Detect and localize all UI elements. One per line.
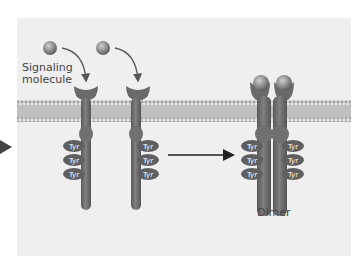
signaling-molecule-label-line2: molecule bbox=[22, 74, 73, 86]
signaling-molecule-2 bbox=[96, 41, 110, 55]
tyr-label: Tyr bbox=[246, 157, 257, 165]
pointer-arrow-icon bbox=[0, 140, 12, 154]
tyr-label: Tyr bbox=[287, 143, 298, 151]
signaling-molecule-1 bbox=[43, 41, 57, 55]
tyr-group-1: Tyr Tyr Tyr bbox=[63, 140, 85, 180]
diagram: Tyr Tyr Tyr Tyr Tyr Tyr bbox=[0, 0, 361, 266]
diagram-canvas: Tyr Tyr Tyr Tyr Tyr Tyr bbox=[0, 0, 361, 266]
tyr-label: Tyr bbox=[246, 171, 257, 179]
tyr-label: Tyr bbox=[287, 157, 298, 165]
tyr-label: Tyr bbox=[68, 171, 79, 179]
bound-signaling-molecule-1 bbox=[253, 75, 269, 91]
tyr-label: Tyr bbox=[68, 143, 79, 151]
panel-background bbox=[17, 18, 351, 256]
bound-signaling-molecule-2 bbox=[276, 75, 292, 91]
tyr-label: Tyr bbox=[142, 171, 153, 179]
tyr-label: Tyr bbox=[142, 157, 153, 165]
dimer-tyr-right: Tyr Tyr Tyr bbox=[282, 140, 304, 180]
tyr-label: Tyr bbox=[287, 171, 298, 179]
tyr-label: Tyr bbox=[68, 157, 79, 165]
tyr-label: Tyr bbox=[142, 143, 153, 151]
tyr-group-2: Tyr Tyr Tyr bbox=[137, 140, 159, 180]
signaling-molecule-label: Signaling molecule bbox=[22, 62, 73, 86]
tyr-label: Tyr bbox=[246, 143, 257, 151]
dimer-label: Dimer bbox=[257, 207, 291, 219]
dimer-tyr-left: Tyr Tyr Tyr bbox=[241, 140, 263, 180]
cell-membrane bbox=[17, 100, 351, 122]
